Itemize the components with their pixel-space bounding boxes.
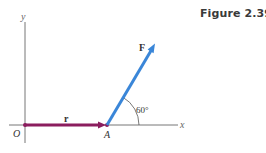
x-axis-label: x bbox=[179, 119, 185, 130]
y-axis-label: y bbox=[20, 11, 26, 22]
vector-r-arrowhead bbox=[98, 122, 106, 129]
origin-point bbox=[23, 123, 27, 127]
figure-2-39: y x O A r F 60° Figure 2.39 bbox=[0, 0, 266, 153]
figure-caption: Figure 2.39 bbox=[200, 7, 266, 20]
point-a-label: A bbox=[103, 129, 111, 140]
vector-r-label: r bbox=[64, 113, 69, 124]
origin-label: O bbox=[13, 128, 20, 139]
angle-label: 60° bbox=[136, 105, 149, 115]
vector-f-label: F bbox=[139, 42, 145, 53]
